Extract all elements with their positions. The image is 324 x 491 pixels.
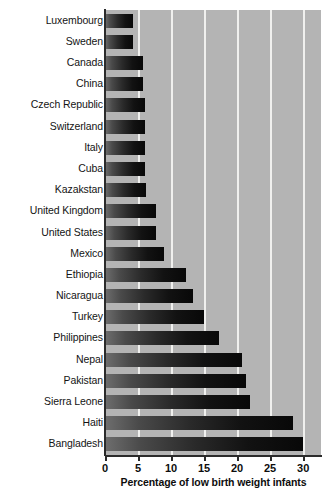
bar-row [105,14,321,28]
bar-row [105,416,321,430]
bar-italy [105,141,145,155]
y-axis-line [104,9,106,456]
tick-mark-25 [270,456,272,461]
y-label-united-kingdom: United Kingdom [0,205,103,216]
y-label-china: China [0,78,103,89]
bar-sierra-leone [105,395,250,409]
y-axis-category-labels: LuxembourgSwedenCanadaChinaCzech Republi… [0,10,103,455]
tick-label-30: 30 [288,462,318,474]
bar-united-kingdom [105,204,156,218]
y-label-kazakstan: Kazakstan [0,184,103,195]
bar-ethiopia [105,268,186,282]
tick-mark-20 [237,456,239,461]
bar-row [105,204,321,218]
bar-bangladesh [105,437,303,451]
tick-label-5: 5 [123,462,153,474]
bar-nicaragua [105,289,193,303]
bar-row [105,268,321,282]
bar-row [105,183,321,197]
y-label-nepal: Nepal [0,354,103,365]
bar-row [105,395,321,409]
y-label-czech-republic: Czech Republic [0,99,103,110]
tick-label-15: 15 [189,462,219,474]
y-label-pakistan: Pakistan [0,375,103,386]
y-label-nicaragua: Nicaragua [0,290,103,301]
tick-label-10: 10 [156,462,186,474]
tick-label-20: 20 [222,462,252,474]
bar-sweden [105,35,133,49]
y-label-sweden: Sweden [0,36,103,47]
bar-united-states [105,226,156,240]
bar-row [105,35,321,49]
bar-row [105,374,321,388]
y-label-haiti: Haiti [0,417,103,428]
bar-luxembourg [105,14,133,28]
y-label-cuba: Cuba [0,163,103,174]
y-label-turkey: Turkey [0,311,103,322]
y-label-canada: Canada [0,57,103,68]
bar-row [105,162,321,176]
y-label-luxembourg: Luxembourg [0,15,103,26]
bar-row [105,353,321,367]
bar-nepal [105,353,242,367]
y-label-bangladesh: Bangladesh [0,438,103,449]
bar-philippines [105,331,219,345]
bar-czech-republic [105,98,145,112]
bar-switzerland [105,120,145,134]
bar-mexico [105,247,164,261]
y-label-philippines: Philippines [0,332,103,343]
plot-area [105,10,321,455]
bar-cuba [105,162,145,176]
bar-row [105,289,321,303]
x-axis-title: Percentage of low birth weight infants [105,476,322,488]
tick-mark-15 [204,456,206,461]
tick-mark-30 [303,456,305,461]
y-label-mexico: Mexico [0,248,103,259]
bar-row [105,226,321,240]
tick-mark-5 [138,456,140,461]
y-label-switzerland: Switzerland [0,121,103,132]
bar-row [105,98,321,112]
tick-label-0: 0 [90,462,120,474]
bar-turkey [105,310,204,324]
bar-row [105,141,321,155]
bar-row [105,247,321,261]
bar-chart: LuxembourgSwedenCanadaChinaCzech Republi… [0,0,324,491]
bar-china [105,77,143,91]
bar-row [105,77,321,91]
bar-row [105,56,321,70]
tick-mark-0 [105,456,107,461]
y-label-sierra-leone: Sierra Leone [0,396,103,407]
bar-row [105,310,321,324]
bar-row [105,331,321,345]
bar-pakistan [105,374,246,388]
bar-canada [105,56,143,70]
y-label-united-states: United States [0,227,103,238]
tick-label-25: 25 [255,462,285,474]
bar-haiti [105,416,293,430]
y-label-ethiopia: Ethiopia [0,269,103,280]
tick-mark-10 [171,456,173,461]
bar-row [105,120,321,134]
y-label-italy: Italy [0,142,103,153]
bar-kazakstan [105,183,146,197]
bar-row [105,437,321,451]
